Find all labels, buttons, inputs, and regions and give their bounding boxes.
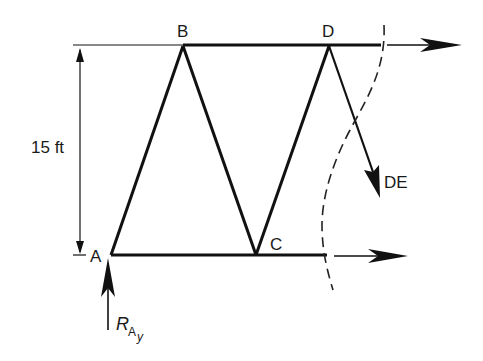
force-label-de: DE [384, 173, 408, 192]
dimension-line [73, 48, 86, 255]
reaction-label: R A y [116, 314, 144, 344]
dimension-label: 15 ft [31, 138, 64, 157]
reaction-subscript: A [128, 325, 136, 339]
reaction-subsubscript: y [136, 330, 144, 344]
top-chord [73, 38, 462, 52]
dimension-up-arrow-icon [76, 48, 84, 62]
truss-diagram: B D A C DE 15 ft R A y [0, 0, 483, 361]
node-label-b: B [177, 22, 188, 41]
reaction-force [101, 258, 115, 330]
node-label-a: A [90, 247, 102, 266]
node-label-d: D [322, 22, 334, 41]
bottom-chord [111, 249, 408, 263]
dimension-down-arrow-icon [76, 241, 84, 254]
web-members [111, 46, 329, 255]
node-label-c: C [270, 235, 282, 254]
